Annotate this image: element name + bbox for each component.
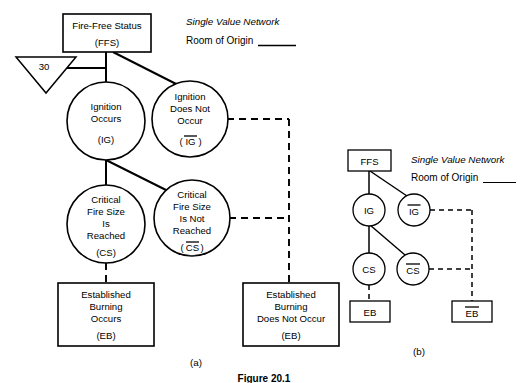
panel-a-node-established-not-occur: Established Burning Does Not Occur (EB) (243, 283, 339, 346)
ignition-not-occur-line2: Does Not (170, 103, 210, 114)
established-occurs-line3: Occurs (91, 313, 122, 324)
triangle-value: 30 (39, 61, 50, 72)
panel-b-header-subtitle: Room of Origin (411, 172, 478, 183)
panel-b-node-eb-bar: EB (452, 301, 492, 322)
ignition-occurs-line2: Occurs (91, 113, 122, 124)
panel-a-header-title: Single Value Network (186, 16, 280, 27)
established-not-occur-line2: Burning (274, 301, 307, 312)
critical-not-reached-line3: Is Not (179, 213, 204, 224)
panel-b-node-cs-bar: CS (397, 253, 429, 285)
panel-b-node-ig-bar: IG (398, 194, 430, 226)
critical-not-reached-abbr-bar: CS (186, 242, 199, 253)
panel-a-node-ignition-not-occur: Ignition Does Not Occur ( IG ) (152, 81, 228, 157)
panel-a: Single Value Network Room of Origin 30 (16, 14, 339, 368)
panel-a-header: Single Value Network Room of Origin (186, 16, 296, 46)
critical-reached-line3: Is (102, 218, 110, 229)
figure-diagram: Single Value Network Room of Origin 30 (0, 0, 529, 383)
panel-a-node-ffs: Fire-Free Status (FFS) (63, 14, 151, 52)
b-eb-bar-label: EB (466, 308, 479, 319)
panel-b-caption: (b) (413, 346, 425, 357)
ignition-not-occur-line1: Ignition (175, 91, 206, 102)
figure-caption: Figure 20.1 (238, 373, 291, 383)
panel-a-header-subtitle: Room of Origin (186, 35, 253, 46)
panel-b: Single Value Network Room of Origin FFS … (348, 150, 516, 357)
panel-a-triangle-node: 30 (16, 57, 76, 93)
critical-not-reached-line1: Critical (177, 189, 206, 200)
panel-b-node-eb: EB (350, 301, 390, 322)
panel-b-node-cs: CS (353, 253, 385, 285)
b-cs-label: CS (362, 264, 375, 275)
b-cs-bar-label: CS (406, 265, 419, 276)
established-not-occur-line3: Does Not Occur (257, 313, 326, 324)
critical-reached-line2: Fire Size (87, 206, 125, 217)
established-not-occur-abbr: (EB) (281, 330, 300, 341)
b-ffs-label: FFS (360, 156, 378, 167)
panel-a-node-critical-reached: Critical Fire Size Is Reached (CS) (67, 185, 145, 263)
panel-a-node-established-occurs: Established Burning Occurs (EB) (58, 283, 154, 346)
critical-reached-line4: Reached (87, 230, 125, 241)
critical-not-reached-line2: Fire Size (173, 201, 211, 212)
established-occurs-line1: Established (81, 289, 131, 300)
panel-a-caption: (a) (190, 357, 202, 368)
panel-a-node-ignition-occurs: Ignition Occurs (IG) (67, 82, 145, 160)
edge-b-ffs-to-ig-bar (370, 171, 407, 196)
b-eb-label: EB (364, 307, 377, 318)
panel-b-header-title: Single Value Network (411, 154, 505, 165)
critical-not-reached-abbr-close: ) (200, 242, 203, 253)
established-occurs-line2: Burning (89, 301, 122, 312)
ignition-not-occur-line3: Occur (177, 115, 203, 126)
edge-b-ig-to-cs-bar (370, 225, 405, 255)
established-occurs-abbr: (EB) (96, 330, 115, 341)
panel-a-node-critical-not-reached: Critical Fire Size Is Not Reached ( CS ) (154, 180, 230, 256)
panel-b-node-ig: IG (353, 194, 385, 226)
panel-b-header: Single Value Network Room of Origin (411, 154, 516, 183)
b-ig-bar-label: IG (409, 206, 419, 217)
b-ig-label: IG (364, 205, 374, 216)
established-not-occur-line1: Established (266, 289, 316, 300)
ignition-not-occur-abbr-close: ) (198, 136, 201, 147)
ignition-not-occur-abbr-bar: IG (185, 136, 195, 147)
panel-b-node-ffs: FFS (348, 150, 391, 171)
ffs-label-line1: Fire-Free Status (72, 20, 142, 31)
ffs-abbr: (FFS) (95, 37, 120, 48)
ignition-occurs-abbr: (IG) (98, 134, 115, 145)
ignition-occurs-line1: Ignition (91, 101, 122, 112)
critical-not-reached-line4: Reached (173, 225, 211, 236)
critical-reached-line1: Critical (91, 194, 120, 205)
critical-reached-abbr: (CS) (96, 247, 116, 258)
